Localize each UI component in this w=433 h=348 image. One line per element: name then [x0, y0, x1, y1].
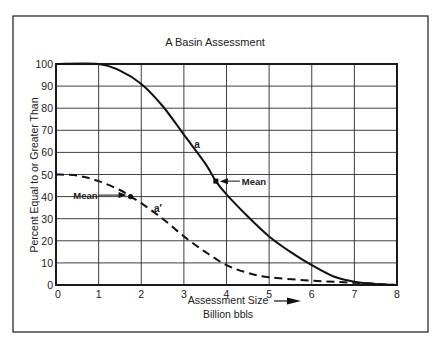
series-a-prime-label: a′	[154, 203, 163, 214]
y-tick-label: 40	[41, 191, 53, 203]
x-tick-label: 6	[309, 288, 315, 300]
x-tick-label: 3	[181, 288, 187, 300]
series-a-label: a	[194, 139, 200, 150]
arrow-left-icon	[220, 178, 228, 184]
x-tick-label: 2	[138, 288, 144, 300]
y-tick-label: 20	[41, 235, 53, 247]
mean-label-a: Mean	[242, 176, 266, 187]
chart-svg: A Basin Assessment 010203040506070809010…	[0, 0, 433, 348]
chart-figure: A Basin Assessment 010203040506070809010…	[0, 0, 433, 348]
y-axis-label: Percent Equal to or Greater Than	[28, 97, 40, 252]
mean-label-a-prime: Mean	[73, 190, 97, 201]
gridlines	[56, 64, 397, 285]
mean-marker-a-prime	[128, 194, 133, 199]
mean-annotation-a-prime: Mean	[73, 190, 126, 201]
y-tick-label: 10	[41, 257, 53, 269]
y-tick-label: 60	[41, 146, 53, 158]
x-axis-unit-label: Billion bbls	[203, 308, 253, 320]
y-tick-label: 80	[41, 102, 53, 114]
y-tick-label: 30	[41, 213, 53, 225]
y-tick-label: 70	[41, 124, 53, 136]
y-tick-label: 90	[41, 80, 53, 92]
x-axis-arrow	[274, 298, 301, 305]
y-tick-label: 100	[35, 58, 53, 70]
y-tick-label: 0	[47, 279, 53, 291]
x-tick-label: 0	[55, 288, 61, 300]
x-tick-label: 1	[96, 288, 102, 300]
x-tick-label: 8	[394, 288, 400, 300]
y-tick-label: 50	[41, 169, 53, 181]
x-axis-label: Assessment Size	[188, 294, 269, 306]
mean-marker-a	[213, 179, 218, 184]
x-tick-label: 7	[351, 288, 357, 300]
chart-title: A Basin Assessment	[165, 36, 265, 48]
arrow-right-icon	[287, 298, 301, 305]
